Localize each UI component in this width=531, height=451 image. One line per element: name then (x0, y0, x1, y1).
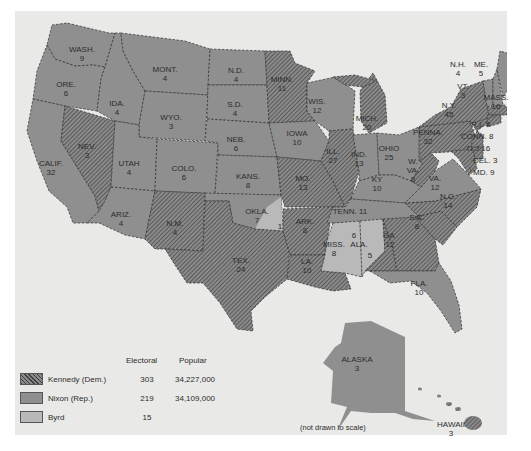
light-gray-swatch-icon (20, 411, 43, 423)
legend-popular: 34,109,000 (175, 394, 215, 403)
legend-electoral: 303 (132, 375, 162, 384)
hatched-swatch-icon (20, 373, 43, 385)
legend-electoral: 219 (132, 394, 162, 403)
legend-candidate: Byrd (48, 413, 64, 422)
legend: Electoral Popular Kennedy (Dem.) 303 34,… (20, 356, 250, 426)
dark-gray-swatch-icon (20, 392, 43, 404)
legend-header-popular: Popular (179, 356, 207, 365)
legend-electoral: 15 (132, 413, 162, 422)
election-map-panel: WASH.9 ORE.6 CALIF.32 IDA.4 NEV.3 MONT.4… (15, 11, 507, 435)
scale-note: (not drawn to scale) (300, 423, 366, 432)
legend-candidate: Kennedy (Dem.) (48, 375, 106, 384)
legend-popular: 34,227,000 (175, 375, 215, 384)
legend-candidate: Nixon (Rep.) (48, 394, 93, 403)
legend-header-electoral: Electoral (126, 356, 157, 365)
